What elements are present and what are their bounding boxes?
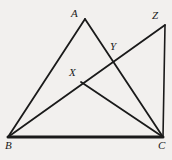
vertex-label-z: Z bbox=[152, 10, 158, 21]
vertex-label-y: Y bbox=[110, 41, 116, 52]
vertex-label-b: B bbox=[5, 140, 12, 151]
figure-canvas bbox=[0, 0, 172, 160]
vertex-label-a: A bbox=[71, 8, 78, 19]
segment-b-a bbox=[8, 19, 85, 137]
segment-a-c bbox=[85, 19, 163, 137]
vertex-label-x: X bbox=[69, 67, 76, 78]
segments-group bbox=[8, 19, 165, 137]
segment-b-z bbox=[8, 25, 165, 137]
segment-x-c bbox=[81, 82, 163, 137]
segment-z-c bbox=[163, 25, 165, 137]
geometry-figure: A Z Y X B C bbox=[0, 0, 172, 160]
vertex-label-c: C bbox=[158, 140, 165, 151]
